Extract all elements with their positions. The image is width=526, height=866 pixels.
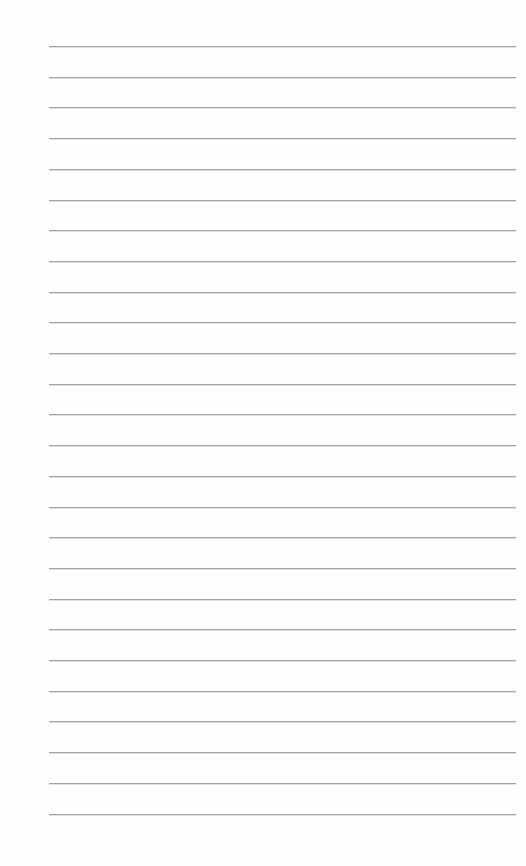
ruled-line: [49, 568, 516, 569]
ruled-line: [49, 783, 516, 784]
ruled-line: [49, 507, 516, 508]
ruled-line: [49, 384, 516, 385]
lined-paper-page: [0, 0, 526, 866]
ruled-line: [49, 200, 516, 201]
ruled-line: [49, 322, 516, 323]
ruled-line: [49, 292, 516, 293]
ruled-line: [49, 814, 516, 815]
ruled-line: [49, 46, 516, 47]
ruled-line: [49, 691, 516, 692]
ruled-line: [49, 629, 516, 630]
ruled-line: [49, 445, 516, 446]
ruled-line: [49, 230, 516, 231]
ruled-line: [49, 353, 516, 354]
ruled-line: [49, 107, 516, 108]
ruled-line: [49, 537, 516, 538]
ruled-line: [49, 476, 516, 477]
ruled-line: [49, 169, 516, 170]
ruled-line: [49, 261, 516, 262]
ruled-line: [49, 77, 516, 78]
ruled-line: [49, 138, 516, 139]
ruled-line: [49, 752, 516, 753]
ruled-line: [49, 721, 516, 722]
ruled-line: [49, 599, 516, 600]
ruled-line: [49, 660, 516, 661]
ruled-line: [49, 414, 516, 415]
